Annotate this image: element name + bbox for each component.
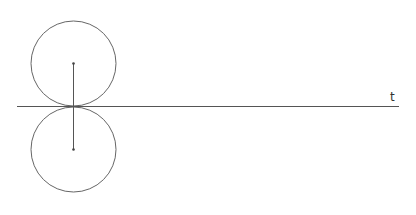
- t-axis-label: t: [390, 91, 395, 103]
- diagram-canvas: [0, 0, 416, 215]
- upper-center-point: [72, 62, 75, 65]
- lower-center-point: [72, 148, 75, 151]
